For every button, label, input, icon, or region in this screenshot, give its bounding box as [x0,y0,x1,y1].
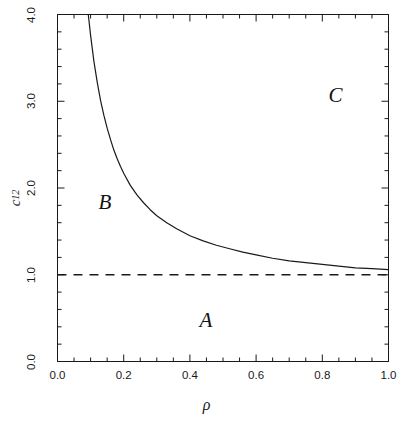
y-axis-minor-ticks [58,32,389,344]
region-label-c: C [329,83,343,108]
x-tick-label: 0.4 [170,369,210,381]
region-label-b: B [98,190,111,215]
x-axis-minor-ticks [74,15,372,362]
plot-frame [58,15,389,362]
y-tick-label: 0.0 [23,345,39,379]
y-tick-label: 3.0 [23,84,39,118]
y-tick-label: 4.0 [23,0,39,32]
y-axis-label-subscript: 12 [10,190,21,200]
x-tick-label: 0.6 [236,369,276,381]
y-tick-label: 1.0 [23,258,39,292]
x-tick-label: 0.8 [302,369,342,381]
y-tick-label: 2.0 [23,171,39,205]
y-axis-label-base: c [7,200,24,207]
x-tick-label: 1.0 [369,369,409,381]
region-label-a: A [199,308,212,333]
x-tick-label: 0.0 [38,369,78,381]
x-tick-label: 0.2 [104,369,144,381]
chart-plot-area [0,0,413,423]
x-axis-major-ticks [58,15,389,362]
boundary-curve [88,15,388,270]
x-axis-label: ρ [0,396,413,414]
y-axis-major-ticks [58,15,389,362]
